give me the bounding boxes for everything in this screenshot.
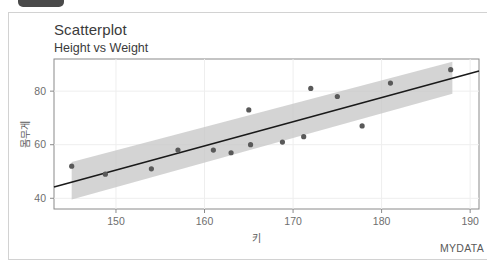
data-point	[301, 134, 306, 139]
x-axis-tick-label: 160	[196, 215, 214, 227]
y-axis-tick-label: 80	[34, 85, 46, 97]
x-axis-title: 키	[252, 233, 261, 244]
x-axis: 150160170180190	[107, 209, 479, 227]
y-axis-tick-label: 40	[34, 192, 46, 204]
data-point	[360, 123, 365, 128]
data-point	[335, 94, 340, 99]
data-point	[248, 142, 253, 147]
window-tab[interactable]	[18, 0, 64, 7]
plot-card: Scatterplot Height vs Weight MYDATA 1501…	[8, 12, 495, 260]
x-axis-tick-label: 190	[461, 215, 479, 227]
data-point	[448, 67, 453, 72]
x-axis-tick-label: 150	[107, 215, 125, 227]
data-point	[211, 147, 216, 152]
y-axis-tick-label: 60	[34, 138, 46, 150]
data-point	[69, 164, 74, 169]
x-axis-tick-label: 180	[373, 215, 391, 227]
data-point	[228, 150, 233, 155]
data-point	[246, 107, 251, 112]
x-axis-tick-label: 170	[284, 215, 302, 227]
data-point	[308, 86, 313, 91]
data-point	[388, 81, 393, 86]
data-point	[175, 147, 180, 152]
data-point	[280, 139, 285, 144]
scatterplot-svg: 150160170180190 406080 키몸무게	[9, 13, 496, 261]
data-point	[149, 166, 154, 171]
y-axis-title: 몸무게	[20, 121, 31, 148]
data-point	[103, 172, 108, 177]
y-axis: 406080	[34, 85, 54, 204]
